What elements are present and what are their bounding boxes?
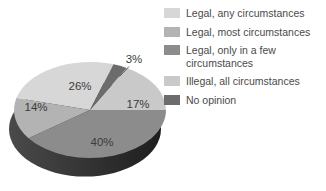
legend-label-legal-any: Legal, any circumstances: [186, 7, 304, 20]
slice-label-26pct: 26%: [68, 80, 91, 92]
legend-item: Legal, any circumstances: [164, 7, 323, 20]
legend-item: No opinion: [164, 94, 323, 107]
legend-label-legal-most: Legal, most circumstances: [186, 26, 310, 39]
legend-label-legal-few: Legal, only in a few circumstances: [186, 44, 323, 69]
slice-label-14pct: 14%: [24, 101, 47, 113]
legend-swatch-illegal-all: [164, 76, 180, 86]
legend-label-no-opinion: No opinion: [186, 94, 236, 107]
pie-chart-figure: 26%14%40%17%3% Legal, any circumstances …: [0, 0, 326, 191]
slice-label-3pct: 3%: [126, 53, 143, 65]
legend-item: Legal, only in a few circumstances: [164, 44, 323, 69]
legend-item: Illegal, all circumstances: [164, 75, 323, 88]
slice-label-40pct: 40%: [90, 136, 113, 148]
legend-label-illegal-all: Illegal, all circumstances: [186, 75, 300, 88]
legend-item: Legal, most circumstances: [164, 26, 323, 39]
legend-swatch-legal-most: [164, 27, 180, 37]
legend: Legal, any circumstances Legal, most cir…: [164, 7, 323, 106]
legend-swatch-no-opinion: [164, 95, 180, 105]
slice-label-17pct: 17%: [126, 98, 149, 110]
legend-swatch-legal-any: [164, 8, 180, 18]
legend-swatch-legal-few: [164, 45, 180, 55]
